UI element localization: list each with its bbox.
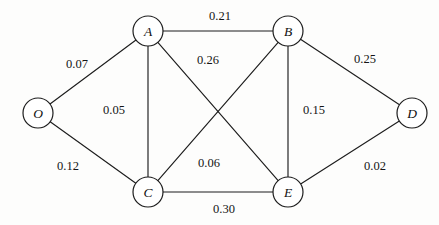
nodes-layer: OABCDE <box>23 16 427 207</box>
node-label-e: E <box>283 185 293 200</box>
edge-weight-b-e: 0.15 <box>303 103 325 117</box>
edge-weight-d-e: 0.02 <box>364 159 386 173</box>
node-label-c: C <box>143 185 153 200</box>
node-label-d: D <box>406 106 417 121</box>
node-label-b: B <box>284 24 292 39</box>
edge-b-d <box>301 39 400 104</box>
node-o[interactable]: O <box>23 98 53 128</box>
graph-svg: OABCDE 0.070.120.210.050.260.060.250.150… <box>0 0 439 225</box>
node-a[interactable]: A <box>133 16 163 46</box>
edge-weight-a-e: 0.26 <box>197 53 219 67</box>
node-c[interactable]: C <box>133 177 163 207</box>
edge-weight-c-e: 0.30 <box>213 202 235 216</box>
node-label-a: A <box>143 24 153 39</box>
edge-o-a <box>50 40 136 104</box>
edge-weight-b-c: 0.06 <box>198 156 220 170</box>
node-d[interactable]: D <box>397 98 427 128</box>
node-label-o: O <box>33 106 43 121</box>
edge-weight-o-a: 0.07 <box>66 57 88 71</box>
edge-weight-b-d: 0.25 <box>354 52 376 66</box>
edge-weight-a-c: 0.05 <box>103 103 125 117</box>
edge-o-c <box>50 122 136 184</box>
edge-weight-a-b: 0.21 <box>209 9 231 23</box>
node-b[interactable]: B <box>273 16 303 46</box>
edge-d-e <box>301 121 400 184</box>
graph-diagram-canvas: OABCDE 0.070.120.210.050.260.060.250.150… <box>0 0 439 225</box>
edge-weight-o-c: 0.12 <box>57 159 79 173</box>
node-e[interactable]: E <box>273 177 303 207</box>
edge-labels-layer: 0.070.120.210.050.260.060.250.150.300.02 <box>57 9 386 216</box>
